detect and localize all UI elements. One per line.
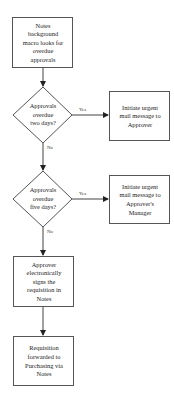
node-action2-text: Initiate urgent mail message to Approver… — [110, 176, 170, 224]
node-sign-text: Approver electronically signs the requis… — [14, 257, 74, 307]
edge-label-decision1-no: No — [47, 145, 53, 150]
edge-label-decision1-yes: Yes — [79, 107, 86, 112]
node-decision1-text: Approvals overdue two days? — [18, 100, 68, 130]
node-forward-text: Requisition forwarded to Purchasing via … — [14, 337, 74, 386]
node-start-text: Notes background macro looks for overdue… — [13, 18, 73, 68]
edge-label-decision2-yes: Yes — [79, 191, 86, 196]
node-decision2-text: Approvals overdue five days? — [18, 184, 68, 214]
node-action1-text: Initiate urgent mail message to Approver — [110, 92, 170, 141]
edge-label-decision2-no: No — [47, 229, 53, 234]
